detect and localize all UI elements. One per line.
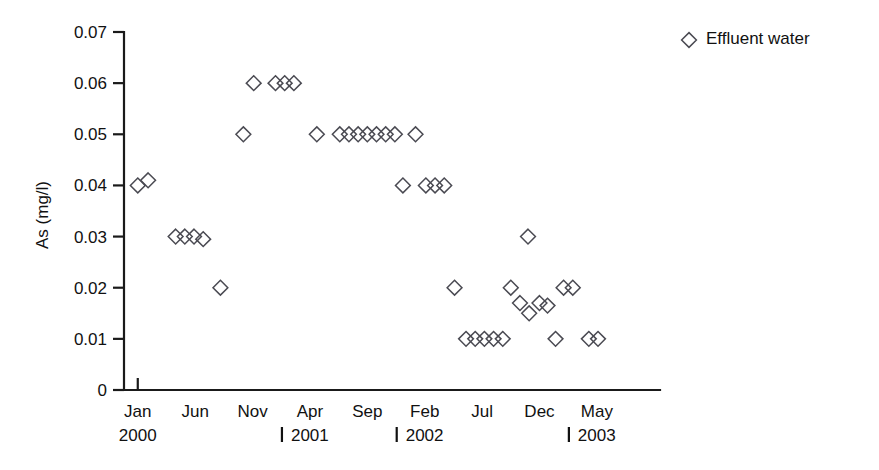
- x-year-label-2002: 2002: [406, 426, 444, 445]
- x-year-label-2001: 2001: [291, 426, 329, 445]
- data-point: [486, 331, 501, 346]
- data-point: [522, 306, 537, 321]
- x-tick-label-jul: Jul: [471, 402, 493, 421]
- data-point: [309, 127, 324, 142]
- x-tick-label-apr: Apr: [297, 402, 324, 421]
- data-point: [468, 331, 483, 346]
- x-tick-label-sep: Sep: [352, 402, 382, 421]
- data-point: [342, 127, 357, 142]
- data-point: [396, 178, 411, 193]
- data-point: [447, 280, 462, 295]
- data-point: [351, 127, 366, 142]
- data-point: [565, 280, 580, 295]
- y-tick-label: 0.06: [74, 74, 107, 93]
- data-point: [459, 331, 474, 346]
- data-point: [408, 127, 423, 142]
- data-point: [369, 127, 384, 142]
- data-point: [477, 331, 492, 346]
- y-tick-label: 0.01: [74, 330, 107, 349]
- data-point: [591, 331, 606, 346]
- data-point: [548, 331, 563, 346]
- y-tick-labels-group: 00.010.020.030.040.050.060.07: [74, 23, 107, 400]
- x-year-labels-group: 2000200120022003: [119, 426, 616, 445]
- data-point: [418, 178, 433, 193]
- data-point: [286, 76, 301, 91]
- y-tick-label: 0: [98, 381, 107, 400]
- y-tick-label: 0.02: [74, 279, 107, 298]
- legend: Effluent water: [682, 29, 810, 48]
- data-point: [503, 280, 518, 295]
- data-point: [495, 331, 510, 346]
- data-point: [556, 280, 571, 295]
- x-tick-label-feb: Feb: [410, 402, 439, 421]
- y-tick-label: 0.04: [74, 176, 107, 195]
- data-point: [213, 280, 228, 295]
- data-point: [141, 173, 156, 188]
- data-point: [360, 127, 375, 142]
- y-axis-title: As (mg/l): [33, 181, 52, 249]
- x-tick-label-jan: Jan: [124, 402, 151, 421]
- data-point: [168, 229, 183, 244]
- y-tick-label: 0.03: [74, 228, 107, 247]
- data-point: [532, 296, 547, 311]
- data-point: [177, 229, 192, 244]
- x-tick-label-jun: Jun: [181, 402, 208, 421]
- data-point: [581, 331, 596, 346]
- data-point: [387, 127, 402, 142]
- x-year-label-2000: 2000: [119, 426, 157, 445]
- data-point: [277, 76, 292, 91]
- x-year-label-2003: 2003: [578, 426, 616, 445]
- data-point: [332, 127, 347, 142]
- data-point: [521, 229, 536, 244]
- chart-page: 00.010.020.030.040.050.060.07 JanJunNovA…: [0, 0, 879, 470]
- x-tick-labels-group: JanJunNovAprSepFebJulDecMay: [124, 402, 613, 421]
- data-point: [268, 76, 283, 91]
- x-tick-label-may: May: [581, 402, 614, 421]
- y-tick-label: 0.05: [74, 125, 107, 144]
- legend-diamond-icon: [682, 33, 697, 48]
- x-tick-label-dec: Dec: [524, 402, 555, 421]
- data-point: [246, 76, 261, 91]
- data-point: [236, 127, 251, 142]
- data-point: [428, 178, 443, 193]
- data-point: [130, 178, 145, 193]
- data-markers-group: [130, 76, 605, 347]
- x-tick-label-nov: Nov: [237, 402, 268, 421]
- axis-lines: [124, 32, 660, 390]
- data-point: [437, 178, 452, 193]
- data-point: [513, 296, 528, 311]
- y-ticks-group: [113, 32, 138, 390]
- axes-group: [124, 32, 660, 390]
- y-tick-label: 0.07: [74, 23, 107, 42]
- data-point: [378, 127, 393, 142]
- scatter-chart: 00.010.020.030.040.050.060.07 JanJunNovA…: [0, 0, 879, 470]
- legend-label: Effluent water: [706, 29, 810, 48]
- data-point: [540, 298, 555, 313]
